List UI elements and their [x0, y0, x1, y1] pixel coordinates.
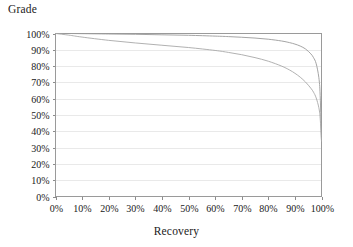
x-axis-title: Recovery — [0, 225, 353, 237]
y-tick-label: 20% — [31, 159, 49, 170]
x-tick-label: 60% — [206, 203, 224, 214]
x-tick-label: 30% — [126, 203, 144, 214]
data-series — [56, 33, 322, 141]
y-tick-label: 90% — [31, 45, 49, 56]
y-tick-label: 40% — [31, 126, 49, 137]
x-tick-label: 0% — [50, 203, 63, 214]
x-tick-label: 90% — [286, 203, 304, 214]
y-axis-ticks: 0%10%20%30%40%50%60%70%80%90%100% — [26, 29, 55, 203]
x-tick-label: 20% — [100, 203, 118, 214]
x-tick-label: 10% — [73, 203, 91, 214]
y-tick-label: 100% — [26, 29, 49, 40]
y-tick-label: 80% — [31, 61, 49, 72]
x-tick-label: 80% — [259, 203, 277, 214]
y-tick-label: 60% — [31, 94, 49, 105]
y-tick-label: 50% — [31, 110, 49, 121]
y-tick-label: 10% — [31, 175, 49, 186]
y-tick-label: 70% — [31, 77, 49, 88]
x-tick-label: 100% — [311, 203, 334, 214]
grade-recovery-chart: Grade 0%10%20%30%40%50%60%70%80%90%100% … — [0, 0, 353, 247]
x-tick-label: 40% — [153, 203, 171, 214]
y-tick-label: 0% — [36, 192, 49, 203]
plot-area: 0%10%20%30%40%50%60%70%80%90%100% 0%10%2… — [0, 0, 353, 247]
gridlines — [56, 51, 322, 181]
x-tick-label: 70% — [233, 203, 251, 214]
y-tick-label: 30% — [31, 143, 49, 154]
x-axis-ticks: 0%10%20%30%40%50%60%70%80%90%100% — [50, 197, 334, 214]
lower-grade-recovery-curve — [56, 34, 322, 142]
x-tick-label: 50% — [180, 203, 198, 214]
upper-grade-recovery-curve — [56, 33, 322, 141]
